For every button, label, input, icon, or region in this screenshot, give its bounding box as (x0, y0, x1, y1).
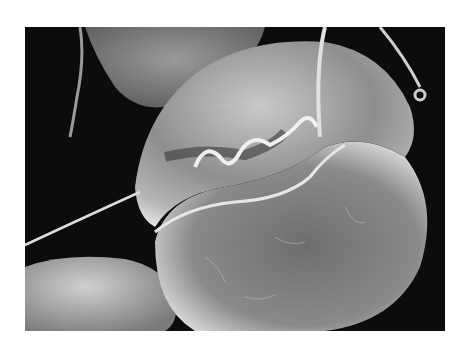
micrograph-illustration (25, 27, 445, 331)
micrograph-photo (25, 27, 445, 331)
lower-left-cell (25, 257, 176, 331)
longitudinal-flagellum (25, 192, 140, 245)
